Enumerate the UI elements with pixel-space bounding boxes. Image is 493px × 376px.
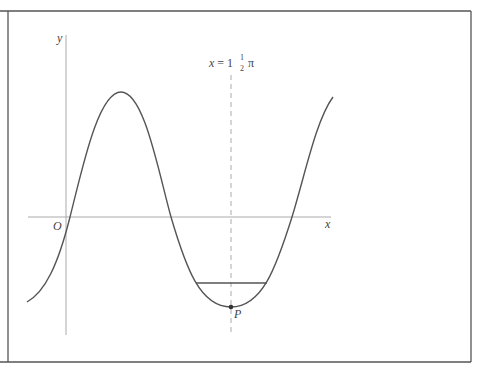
- line-equation-frac-den: 2: [240, 64, 244, 73]
- origin-label: O: [53, 219, 62, 233]
- x-axis-label: x: [324, 217, 331, 231]
- line-equation-frac-num: 1: [240, 53, 244, 62]
- sinusoid-curve: [27, 92, 333, 307]
- point-p-marker: [229, 305, 234, 310]
- line-equation-lhs: x = 1: [208, 56, 233, 70]
- line-equation-pi: π: [248, 56, 254, 70]
- graph-figure: y x O P x = 1 1 2 π: [0, 0, 493, 376]
- y-axis-label: y: [56, 31, 63, 45]
- point-p-label: P: [233, 307, 242, 321]
- line-equation-label: x = 1 1 2 π: [208, 53, 254, 73]
